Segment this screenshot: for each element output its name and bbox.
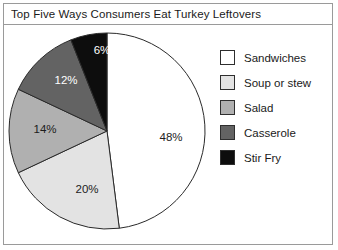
- legend-color-swatch: [220, 125, 235, 140]
- pie-slice-value-label: 20%: [75, 183, 98, 195]
- legend-item[interactable]: Casserole: [220, 120, 332, 145]
- chart-title-bar: Top Five Ways Consumers Eat Turkey Lefto…: [4, 4, 332, 25]
- pie-slice-value-label: 48%: [159, 131, 182, 143]
- legend-item-label: Sandwiches: [244, 52, 306, 64]
- legend-color-swatch: [220, 50, 235, 65]
- legend-item-label: Casserole: [244, 127, 296, 139]
- pie-slice-value-label: 14%: [33, 123, 56, 135]
- pie-slice-value-label: 6%: [94, 44, 111, 56]
- pie-slice[interactable]: [107, 33, 205, 228]
- legend-item-label: Salad: [244, 102, 273, 114]
- legend-item[interactable]: Soup or stew: [220, 70, 332, 95]
- legend-item[interactable]: Stir Fry: [220, 145, 332, 170]
- legend-color-swatch: [220, 150, 235, 165]
- legend-item[interactable]: Sandwiches: [220, 45, 332, 70]
- legend-item[interactable]: Salad: [220, 95, 332, 120]
- pie-chart-figure: Top Five Ways Consumers Eat Turkey Lefto…: [0, 0, 338, 250]
- legend-color-swatch: [220, 100, 235, 115]
- page-title: Top Five Ways Consumers Eat Turkey Lefto…: [4, 8, 261, 20]
- legend-item-label: Soup or stew: [244, 77, 311, 89]
- pie-slice-value-label: 12%: [54, 74, 77, 86]
- legend-item-label: Stir Fry: [244, 152, 281, 164]
- chart-legend: SandwichesSoup or stewSaladCasseroleStir…: [220, 45, 332, 170]
- legend-color-swatch: [220, 75, 235, 90]
